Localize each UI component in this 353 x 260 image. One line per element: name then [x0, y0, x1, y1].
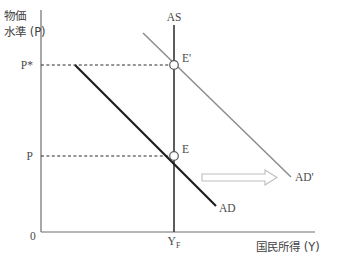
equilibrium-label-e: E	[182, 143, 189, 155]
equilibrium-label-e-prime: E'	[182, 52, 191, 64]
y-axis-label-line2: 水準 (P)	[4, 25, 46, 39]
equilibrium-point-e-prime	[170, 61, 179, 70]
ad-curve-label: AD	[219, 202, 236, 214]
ad-curve	[75, 65, 216, 206]
tick-p: P	[27, 150, 33, 162]
y-axis-label-line1: 物価	[4, 9, 26, 23]
equilibrium-point-e	[170, 152, 179, 161]
diagram-canvas: AS AD AD' E' E P* P YF 0 物価 水準 (P) 国民所得 …	[0, 0, 353, 260]
ad-shift-arrow	[202, 170, 277, 185]
tick-yf-subscript: F	[176, 241, 181, 250]
origin-label: 0	[30, 230, 36, 242]
tick-yf: YF	[168, 235, 181, 250]
ad-as-diagram: AS AD AD' E' E P* P YF 0 物価 水準 (P) 国民所得 …	[0, 0, 353, 260]
as-curve-label: AS	[167, 11, 182, 23]
x-axis-label: 国民所得 (Y)	[256, 240, 320, 254]
ad-shifted-curve-label: AD'	[295, 171, 314, 183]
tick-p-star: P*	[21, 59, 33, 71]
